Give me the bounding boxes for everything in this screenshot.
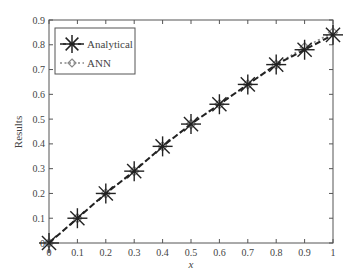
- x-tick-label: 0.4: [156, 247, 169, 258]
- y-tick-label: 0.6: [33, 89, 46, 100]
- legend-label: ANN: [87, 57, 111, 69]
- x-tick-label: 0.3: [128, 247, 141, 258]
- line-chart: 00.10.20.30.40.50.60.70.80.9100.10.20.30…: [0, 0, 359, 279]
- x-tick-label: 0.2: [100, 247, 113, 258]
- x-tick-label: 1: [331, 247, 336, 258]
- x-tick-label: 0.9: [298, 247, 311, 258]
- y-tick-label: 0.2: [33, 188, 46, 199]
- x-tick-label: 0.7: [242, 247, 255, 258]
- y-tick-label: 0.1: [33, 213, 46, 224]
- y-tick-label: 0.3: [33, 163, 46, 174]
- x-tick-label: 0.1: [71, 247, 84, 258]
- chart: 00.10.20.30.40.50.60.70.80.9100.10.20.30…: [0, 0, 359, 279]
- y-tick-label: 0.4: [33, 138, 46, 149]
- y-tick-label: 0.7: [33, 64, 46, 75]
- legend-label: Analytical: [87, 38, 133, 50]
- legend: AnalyticalANN: [55, 28, 135, 74]
- y-tick-label: 0.5: [33, 114, 46, 125]
- x-tick-label: 0.6: [213, 247, 226, 258]
- x-tick-label: 0.8: [270, 247, 283, 258]
- y-tick-label: 0.8: [33, 39, 46, 50]
- x-axis-label: x: [188, 258, 194, 270]
- x-tick-label: 0.5: [185, 247, 198, 258]
- y-axis-label: Results: [12, 116, 24, 148]
- y-tick-label: 0.9: [33, 15, 46, 26]
